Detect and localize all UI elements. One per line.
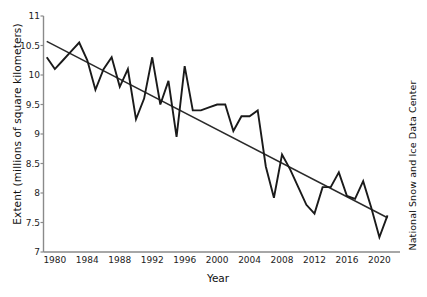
sea-ice-extent-line	[47, 43, 388, 238]
arctic-sea-ice-extent-chart: 77.588.599.51010.511 Extent (millions of…	[0, 0, 427, 297]
trend-line	[47, 41, 388, 217]
plot-area	[0, 0, 427, 297]
axis-lines	[44, 16, 401, 252]
